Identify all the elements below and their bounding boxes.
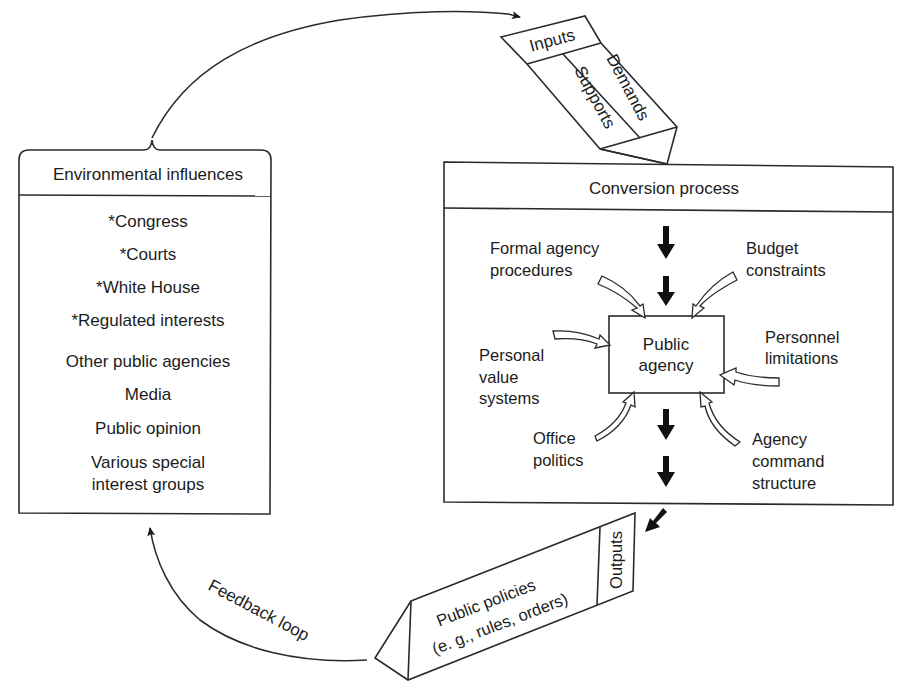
budget-constraints-line2: constraints bbox=[746, 261, 826, 279]
feedback-loop-label: Feedback loop bbox=[205, 576, 312, 645]
formal-agency-procedures-line2: procedures bbox=[490, 261, 573, 279]
outputs-prism: Outputs Public policies (e. g., rules, o… bbox=[375, 513, 635, 680]
influence-other-public-agencies: Other public agencies bbox=[66, 352, 230, 371]
public-agency-line1: Public bbox=[643, 335, 690, 354]
outputs-title: Outputs bbox=[607, 531, 625, 589]
influence-congress: *Congress bbox=[108, 212, 187, 231]
public-agency-systems-diagram: Environmental influences *Congress *Cour… bbox=[0, 0, 901, 696]
inputs-prism: Inputs Supports Demands bbox=[501, 16, 677, 164]
to-outputs-arrow-icon bbox=[645, 508, 667, 532]
influence-media: Media bbox=[125, 385, 172, 404]
influence-special-interest-line1: Various special bbox=[91, 453, 205, 472]
personnel-limitations-line1: Personnel bbox=[765, 328, 839, 346]
personal-value-systems-line3: systems bbox=[479, 389, 540, 407]
agency-command-structure-line2: command bbox=[752, 452, 824, 470]
environment-to-inputs-connector bbox=[152, 12, 520, 138]
budget-constraints-line1: Budget bbox=[746, 239, 799, 257]
influence-courts: *Courts bbox=[120, 245, 177, 264]
office-politics-line2: politics bbox=[533, 451, 583, 469]
conversion-process-box: Conversion process Public agency Formal … bbox=[444, 162, 893, 505]
influence-public-opinion: Public opinion bbox=[95, 419, 201, 438]
personnel-limitations-line2: limitations bbox=[765, 349, 838, 367]
agency-command-structure-line1: Agency bbox=[752, 430, 808, 448]
influence-regulated-interests: *Regulated interests bbox=[71, 311, 224, 330]
public-agency-box bbox=[609, 316, 724, 393]
feedback-loop-connector: Feedback loop bbox=[150, 528, 367, 661]
formal-agency-procedures-line1: Formal agency bbox=[490, 239, 600, 257]
public-agency-line2: agency bbox=[639, 356, 694, 375]
influence-special-interest-line2: interest groups bbox=[92, 475, 204, 494]
personal-value-systems-line1: Personal bbox=[479, 346, 544, 364]
agency-command-structure-line3: structure bbox=[752, 474, 816, 492]
personal-value-systems-line2: value bbox=[479, 368, 518, 386]
office-politics-line1: Office bbox=[533, 429, 576, 447]
environmental-influences-title: Environmental influences bbox=[53, 165, 243, 184]
environmental-influences-box: Environmental influences *Congress *Cour… bbox=[19, 140, 271, 514]
influence-white-house: *White House bbox=[96, 278, 200, 297]
conversion-process-title: Conversion process bbox=[589, 179, 739, 198]
